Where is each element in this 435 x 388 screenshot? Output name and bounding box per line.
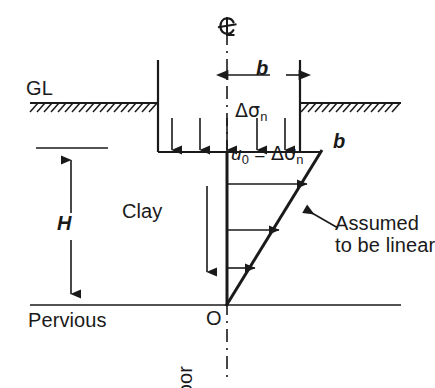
pervious-boundary-label: Pervious: [28, 310, 107, 332]
centerline-symbol-icon: [216, 16, 240, 42]
ground-line-right: [300, 103, 401, 112]
pressure-distribution-arrows: [228, 184, 307, 268]
ground-hatch-right: [301, 103, 400, 112]
assumed-linear-line2: to be linear: [335, 235, 435, 257]
equals-sign: =: [254, 143, 265, 164]
ground-hatch-left: [30, 103, 157, 112]
pore-pressure-rhs-subscript: n: [296, 152, 303, 167]
assumed-linear-line1: Assumed: [335, 213, 435, 235]
consolidation-diagram: GL b b Δσn u0 = Δσn Clay Floor H Assumed…: [0, 0, 435, 388]
pore-pressure-equation: u0 = Δσn: [231, 143, 303, 167]
ground-line-left: [30, 103, 159, 112]
pore-pressure-rhs-symbol: Δσ: [271, 142, 296, 164]
floor-label: Floor: [175, 366, 197, 388]
corner-width-label: b: [333, 131, 345, 153]
applied-stress-symbol: Δσ: [235, 99, 260, 121]
origin-label: O: [206, 308, 222, 330]
ground-line-label: GL: [26, 78, 53, 100]
applied-stress-subscript: n: [260, 109, 267, 124]
floor-label-wrapper: Floor: [177, 200, 201, 290]
depth-dimension-H: [36, 148, 108, 294]
pore-pressure-variable: u: [231, 143, 242, 164]
width-dimension-label: b: [256, 58, 268, 80]
soil-layer-label: Clay: [122, 201, 162, 223]
applied-stress-label: Δσn: [235, 100, 268, 124]
pore-pressure-subscript: 0: [242, 152, 249, 167]
assumed-linear-leader: [305, 209, 338, 228]
pore-pressure-triangle: [226, 150, 322, 306]
depth-dimension-label: H: [57, 213, 72, 235]
assumed-linear-note: Assumed to be linear: [335, 213, 435, 256]
